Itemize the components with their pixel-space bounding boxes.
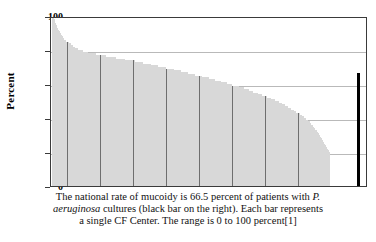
plot-area	[50, 17, 367, 187]
mucoidy-bar-chart-figure: Percent 020406080100 The national rate o…	[0, 0, 376, 242]
bar-series-cf-centers	[52, 18, 332, 186]
national-rate-reference-bar	[357, 73, 360, 186]
y-axis-title: Percent	[4, 61, 16, 121]
caption-line-2: aeruginosa cultures (black bar on the ri…	[30, 203, 346, 215]
bar	[329, 152, 330, 186]
bars-area	[51, 18, 366, 186]
caption-line-1-text: The national rate of mucoidy is 66.5 per…	[56, 191, 313, 202]
caption-line-2-italic: aeruginosa	[53, 203, 100, 214]
caption-line-1-italic: P.	[312, 191, 320, 202]
caption-line-3: a single CF Center. The range is 0 to 10…	[30, 215, 346, 227]
figure-caption: The national rate of mucoidy is 66.5 per…	[30, 191, 346, 228]
caption-line-2-text: cultures (black bar on the right). Each …	[100, 203, 323, 214]
caption-line-1: The national rate of mucoidy is 66.5 per…	[30, 191, 346, 203]
y-tick-mark	[45, 187, 50, 188]
